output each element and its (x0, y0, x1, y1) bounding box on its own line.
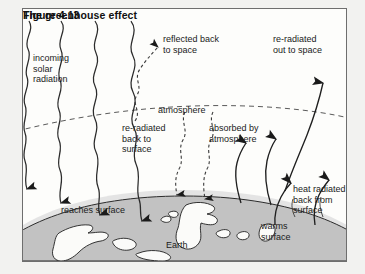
label-re-radiated-out-to-space: re-radiated out to space (273, 34, 322, 55)
label-absorbed-by-atmosphere: absorbed by atmosphere (209, 123, 259, 144)
re-radiated-back-to-surface-arrows (176, 112, 213, 199)
figure-panel: Figure 4.13 The greenhouse effect incomi… (22, 8, 347, 262)
label-reflected-back-to-space: reflected back to space (163, 34, 219, 55)
incoming-solar-arrows (24, 21, 142, 221)
label-re-radiated-back-to-surface: re-radiated back to surface (122, 123, 166, 155)
label-heat-radiated-back-from-surface: heat radiated back from surface (293, 184, 346, 216)
label-reaches-surface: reaches surface (61, 205, 125, 216)
figure-title: The greenhouse effect (23, 9, 137, 21)
label-atmosphere: atmosphere (158, 105, 206, 116)
label-warms-surface: warms surface (261, 221, 291, 242)
label-incoming-solar-radiation: incoming solar radiation (33, 53, 69, 85)
re-radiated-out-to-space-arrow (285, 83, 323, 191)
label-earth: Earth (166, 240, 188, 251)
reflected-back-arrow (135, 47, 158, 121)
